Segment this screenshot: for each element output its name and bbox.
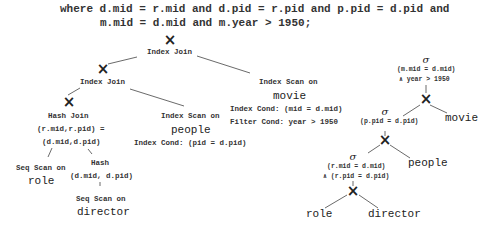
people-index-cond: Index Cond: (pid = d.pid) xyxy=(134,137,247,149)
top-select-cond-1: (m.mid = d.mid) xyxy=(397,65,456,75)
logical-role-table: role xyxy=(306,208,332,220)
root-index-join-label: Index Join xyxy=(147,46,192,58)
hash-join-label: Hash Join xyxy=(48,110,89,122)
hash-label: Hash xyxy=(91,157,109,169)
hash-keys: (d.mid, d.pid) xyxy=(70,170,133,182)
movie-table: movie xyxy=(273,90,306,102)
movie-filter-cond: Filter Cond: year > 1950 xyxy=(230,116,338,128)
people-table: people xyxy=(171,124,211,136)
seq-scan-role-label: Seq Scan on xyxy=(16,162,66,174)
root-join-icon: × xyxy=(163,33,177,47)
logical-people-table: people xyxy=(408,157,448,169)
hash-join-cond-1: (r.mid,r.pid) = xyxy=(37,123,105,135)
low-select-sigma-icon: σ xyxy=(347,152,359,162)
top-select-sigma-icon: σ xyxy=(420,55,432,65)
top-join-icon: × xyxy=(419,92,433,106)
top-select-cond-2: ∧ year > 1950 xyxy=(399,75,450,85)
low-select-cond-1: (r.mid = d.mid) xyxy=(327,162,386,172)
low-select-cond-2: ∧ (r.pid = d.pid) xyxy=(323,172,389,182)
mid-join-icon: × xyxy=(378,133,392,147)
seq-scan-director-label: Seq Scan on xyxy=(76,193,126,205)
index-scan-people-label: Index Scan on xyxy=(161,110,220,122)
logical-movie-table: movie xyxy=(445,112,478,124)
role-table: role xyxy=(28,175,54,187)
hash-join-cond-2: (d.mid,d.pid) xyxy=(42,136,101,148)
director-table: director xyxy=(77,206,130,218)
index-scan-movie-label: Index Scan on xyxy=(259,76,318,88)
logical-director-table: director xyxy=(368,208,421,220)
low-join-icon: × xyxy=(346,184,360,198)
mid-select-cond-1: (p.pid = d.pid) xyxy=(360,117,419,127)
mid-select-sigma-icon: σ xyxy=(379,107,391,117)
left-join-icon: × xyxy=(96,62,110,76)
hash-join-icon: × xyxy=(62,95,76,109)
left-index-join-label: Index Join xyxy=(80,76,125,88)
movie-index-cond: Index Cond: (mid = d.mid) xyxy=(230,103,343,115)
